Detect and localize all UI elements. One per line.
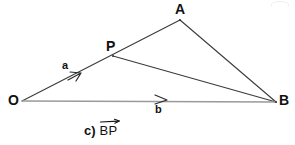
vertex-label-A: A (175, 2, 185, 16)
segment-P-to-B (113, 56, 276, 102)
segment-A-to-B (180, 20, 276, 102)
vertex-dot-P (112, 55, 114, 57)
segment-O-to-A-through-P (22, 20, 180, 101)
corner-artifact (271, 1, 289, 7)
overline-arrow-icon (100, 119, 122, 125)
vertex-label-P: P (106, 39, 115, 53)
vertex-label-B: B (279, 93, 289, 107)
caption-vector-text: BP (100, 123, 118, 138)
vertex-label-O: O (8, 93, 19, 107)
vertex-dot-A (179, 19, 181, 21)
diagram-canvas (0, 0, 295, 145)
vector-label-a: a (62, 60, 68, 71)
caption-marker: c) (84, 124, 96, 137)
caption: c) BP (84, 119, 117, 137)
vector-diagram-figure: O P A B a b c) BP (0, 0, 295, 145)
segment-O-to-B (22, 101, 276, 102)
vector-label-b: b (155, 104, 162, 115)
caption-vector: BP (100, 119, 118, 137)
vertex-dot-B (275, 101, 277, 103)
